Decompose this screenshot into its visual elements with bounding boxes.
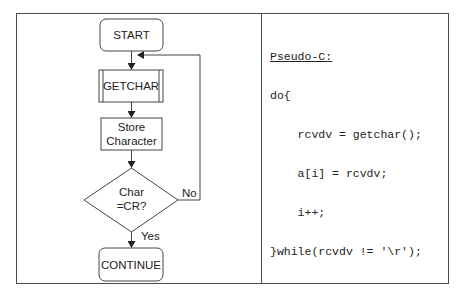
pseudo-line: rcvdv = getchar(); — [270, 128, 422, 141]
decision-node: Char =CR? — [84, 168, 178, 232]
pseudo-c-header: Pseudo-C: — [270, 50, 422, 63]
pseudo-line: }while(rcvdv != '\r'); — [270, 245, 422, 258]
continue-label: CONTINUE — [101, 259, 161, 271]
decision-line1: Char — [119, 186, 144, 198]
code-panel: Pseudo-C: do{ rcvdv = getchar(); a[i] = … — [270, 24, 422, 299]
continue-node: CONTINUE — [99, 248, 163, 281]
pseudo-line: i++; — [270, 206, 422, 219]
getchar-node: GETCHAR — [99, 70, 163, 102]
pseudo-line: do{ — [270, 89, 422, 102]
start-node: START — [100, 19, 163, 51]
yes-label: Yes — [141, 230, 160, 242]
store-node: Store Character — [101, 118, 162, 150]
decision-line2: =CR? — [117, 200, 147, 212]
pseudo-line: a[i] = rcvdv; — [270, 167, 422, 180]
start-label: START — [113, 29, 150, 41]
getchar-label: GETCHAR — [103, 80, 159, 92]
no-label: No — [182, 187, 197, 199]
store-label-line2: Character — [106, 135, 157, 147]
flowchart: START GETCHAR Store Character Char =CR? … — [0, 0, 262, 299]
store-label-line1: Store — [118, 121, 146, 133]
